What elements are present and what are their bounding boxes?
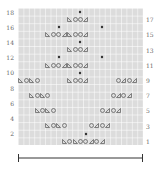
row-label-7: 7 — [146, 92, 158, 99]
row-label-6: 6 — [4, 100, 14, 107]
row-label-14: 14 — [4, 39, 14, 46]
row-label-9: 9 — [146, 77, 158, 84]
k2tog-decrease-icon — [83, 77, 88, 85]
row-label-1: 1 — [146, 138, 158, 145]
repeat-scale-bar — [18, 153, 143, 163]
row-label-13: 13 — [146, 47, 158, 54]
row-label-2: 2 — [4, 130, 14, 137]
bobble-icon — [56, 23, 61, 31]
k2tog-decrease-icon — [83, 31, 88, 39]
row-label-16: 16 — [4, 24, 14, 31]
yarn-over-icon — [45, 92, 50, 100]
row-label-10: 10 — [4, 69, 14, 76]
bobble-icon — [100, 54, 105, 62]
row-label-3: 3 — [146, 123, 158, 130]
yarn-over-icon — [61, 122, 66, 130]
row-label-5: 5 — [146, 107, 158, 114]
row-label-4: 4 — [4, 115, 14, 122]
row-label-8: 8 — [4, 85, 14, 92]
yarn-over-icon — [51, 107, 56, 115]
row-label-18: 18 — [4, 9, 14, 16]
row-label-11: 11 — [146, 62, 158, 69]
bobble-icon — [78, 69, 83, 77]
k2tog-decrease-icon — [83, 61, 88, 69]
k2tog-decrease-icon — [132, 77, 137, 85]
k2tog-decrease-icon — [100, 137, 105, 145]
yarn-over-icon — [34, 77, 39, 85]
bobble-icon — [100, 23, 105, 31]
bobble-icon — [78, 38, 83, 46]
bobble-icon — [78, 8, 83, 16]
k2tog-decrease-icon — [83, 16, 88, 24]
bobble-icon — [83, 130, 88, 138]
row-label-12: 12 — [4, 54, 14, 61]
k2tog-decrease-icon — [105, 122, 110, 130]
row-label-17: 17 — [146, 16, 158, 23]
k2tog-decrease-icon — [127, 92, 132, 100]
k2tog-decrease-icon — [116, 107, 121, 115]
row-label-15: 15 — [146, 31, 158, 38]
k2tog-decrease-icon — [83, 46, 88, 54]
bobble-icon — [56, 54, 61, 62]
